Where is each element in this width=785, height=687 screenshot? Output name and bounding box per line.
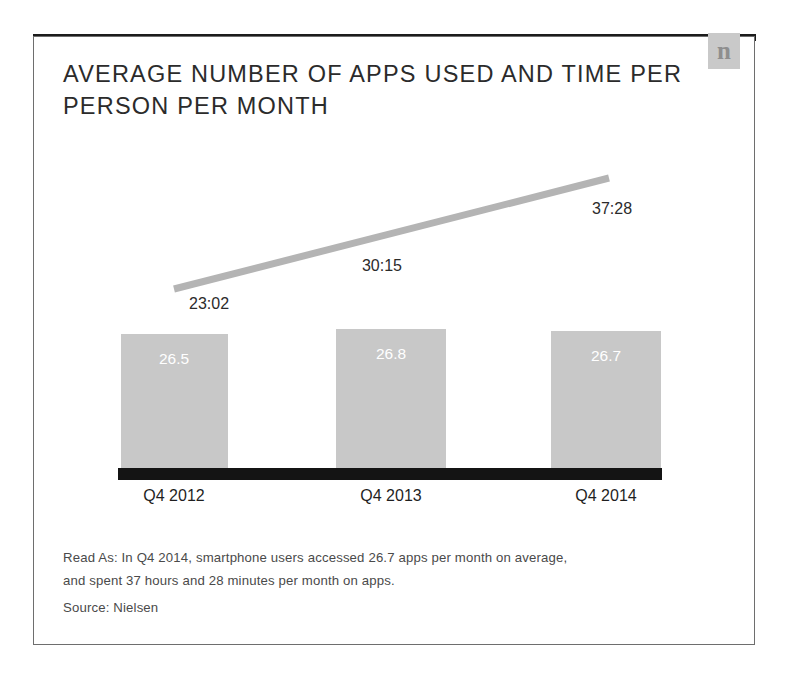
footnote-read-as-line1: Read As: In Q4 2014, smartphone users ac…: [63, 546, 703, 569]
bar-value-label-q4-2014: 26.7: [591, 347, 621, 364]
chart-plot-area: 23:02 30:15 37:28 26.5 26.8 26.7 Q4 2012…: [34, 37, 756, 537]
bar-value-label-q4-2013: 26.8: [376, 345, 406, 362]
footnote-read-as-line2: and spent 37 hours and 28 minutes per mo…: [63, 569, 703, 592]
axis-label-q4-2012: Q4 2012: [143, 487, 204, 504]
chart-card: n Average Number of Apps Used and Time P…: [33, 36, 755, 645]
trend-label-q4-2014: 37:28: [592, 200, 632, 217]
chart-svg: 23:02 30:15 37:28 26.5 26.8 26.7 Q4 2012…: [34, 37, 756, 537]
trend-label-q4-2012: 23:02: [189, 295, 229, 312]
axis-label-q4-2013: Q4 2013: [360, 487, 421, 504]
chart-footnotes: Read As: In Q4 2014, smartphone users ac…: [63, 546, 703, 619]
axis-label-q4-2014: Q4 2014: [575, 487, 636, 504]
trend-label-q4-2013: 30:15: [362, 257, 402, 274]
bar-value-label-q4-2012: 26.5: [159, 350, 189, 367]
axis-baseline: [118, 468, 662, 480]
footnote-source: Source: Nielsen: [63, 592, 703, 619]
